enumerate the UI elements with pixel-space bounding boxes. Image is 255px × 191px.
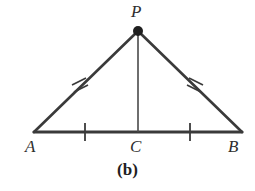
segment-PB [138,31,242,132]
vertex-label-p: P [131,3,141,20]
vertex-label-b: B [228,138,238,155]
geometry-figure: P A C B (b) [0,0,255,191]
vertex-label-c: C [130,138,141,155]
apex-point-dot [133,26,143,36]
vertex-label-a: A [25,138,35,155]
segment-AP [34,31,138,132]
figure-caption: (b) [0,161,255,178]
